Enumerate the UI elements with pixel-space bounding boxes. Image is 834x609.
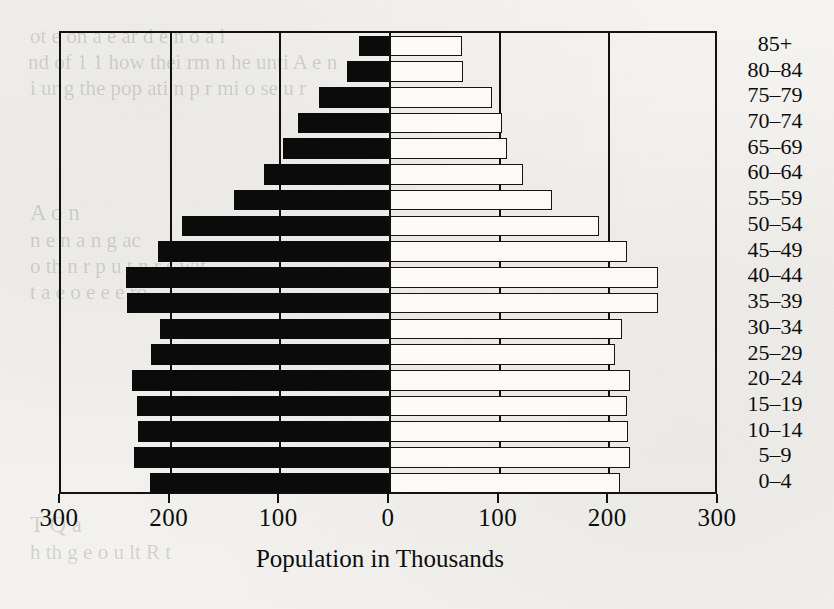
bar-male	[182, 216, 390, 237]
bar-female	[390, 293, 658, 314]
bar-female	[390, 61, 463, 82]
bar-row	[61, 36, 715, 57]
bar-male	[127, 293, 390, 314]
age-group-label: 35–39	[724, 290, 826, 312]
age-group-label: 10–14	[724, 419, 826, 441]
age-group-label: 40–44	[724, 264, 826, 286]
bar-male	[150, 473, 390, 494]
zero-axis-line	[389, 33, 391, 492]
bar-row	[61, 447, 715, 468]
bar-row	[61, 138, 715, 159]
bar-female	[390, 113, 502, 134]
bars-layer	[61, 33, 715, 492]
bar-female	[390, 241, 627, 262]
x-axis-title: Population in Thousands	[0, 544, 760, 574]
bar-female	[390, 190, 552, 211]
x-axis-tick	[387, 494, 389, 503]
bar-male	[234, 190, 390, 211]
bar-female	[390, 319, 622, 340]
bar-male	[126, 267, 390, 288]
age-group-label: 20–24	[724, 367, 826, 389]
bar-female	[390, 447, 630, 468]
age-group-label: 75–79	[724, 84, 826, 106]
population-pyramid-chart: 3002001000100200300 Population in Thousa…	[0, 0, 834, 609]
bar-female	[390, 216, 599, 237]
bar-row	[61, 319, 715, 340]
x-axis-tick-label: 200	[567, 503, 647, 533]
x-axis-tick-label: 100	[238, 503, 318, 533]
age-group-label: 65–69	[724, 136, 826, 158]
bar-row	[61, 87, 715, 108]
bar-row	[61, 267, 715, 288]
bar-male	[359, 36, 390, 57]
bar-male	[132, 370, 390, 391]
x-axis-tick-label: 200	[129, 503, 209, 533]
plot-area	[59, 31, 717, 494]
bar-row	[61, 473, 715, 494]
x-axis-tick-label: 100	[458, 503, 538, 533]
bar-male	[138, 421, 390, 442]
bar-male	[347, 61, 390, 82]
bar-male	[283, 138, 390, 159]
age-group-label: 85+	[724, 33, 826, 55]
age-group-label: 50–54	[724, 213, 826, 235]
bar-female	[390, 36, 462, 57]
x-axis-tick	[716, 494, 718, 503]
bar-row	[61, 293, 715, 314]
bar-row	[61, 113, 715, 134]
bar-male	[298, 113, 390, 134]
bar-female	[390, 267, 658, 288]
age-group-labels: 0–45–910–1415–1920–2425–2930–3435–3940–4…	[724, 31, 826, 494]
bar-row	[61, 421, 715, 442]
bar-female	[390, 370, 630, 391]
bar-male	[319, 87, 390, 108]
bar-row	[61, 241, 715, 262]
x-axis-tick	[277, 494, 279, 503]
bar-male	[151, 344, 390, 365]
x-axis-tick-label: 300	[677, 503, 757, 533]
bar-row	[61, 396, 715, 417]
bar-female	[390, 396, 627, 417]
age-group-label: 30–34	[724, 316, 826, 338]
bar-row	[61, 216, 715, 237]
age-group-label: 55–59	[724, 187, 826, 209]
age-group-label: 25–29	[724, 342, 826, 364]
bar-female	[390, 87, 492, 108]
bar-female	[390, 344, 615, 365]
bar-male	[264, 164, 390, 185]
age-group-label: 15–19	[724, 393, 826, 415]
bar-female	[390, 138, 507, 159]
age-group-label: 70–74	[724, 110, 826, 132]
age-group-label: 80–84	[724, 59, 826, 81]
age-group-label: 0–4	[724, 470, 826, 492]
bar-female	[390, 164, 523, 185]
bar-male	[160, 319, 390, 340]
age-group-label: 45–49	[724, 239, 826, 261]
bar-row	[61, 164, 715, 185]
bar-male	[158, 241, 390, 262]
bar-female	[390, 421, 628, 442]
x-axis-tick-label: 0	[348, 503, 428, 533]
bar-female	[390, 473, 620, 494]
bar-male	[134, 447, 390, 468]
age-group-label: 5–9	[724, 444, 826, 466]
x-axis-tick-label: 300	[19, 503, 99, 533]
x-axis-tick	[497, 494, 499, 503]
x-axis-tick	[606, 494, 608, 503]
bar-row	[61, 190, 715, 211]
bar-row	[61, 61, 715, 82]
bar-row	[61, 344, 715, 365]
bar-row	[61, 370, 715, 391]
age-group-label: 60–64	[724, 161, 826, 183]
x-axis-tick	[58, 494, 60, 503]
x-axis-tick	[168, 494, 170, 503]
bar-male	[137, 396, 390, 417]
